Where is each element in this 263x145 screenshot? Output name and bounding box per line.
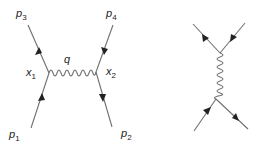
- fermion-line-bottom-right: [216, 99, 248, 129]
- label-p3: p3: [15, 7, 27, 22]
- arrow-down-left-icon: [230, 34, 237, 42]
- fermion-line-bottom-left: [194, 99, 216, 131]
- label-q: q: [64, 53, 71, 65]
- left-feynman-diagram: p3 p4 x1 x2 q p1 p2: [8, 7, 132, 143]
- feynman-diagrams-canvas: p3 p4 x1 x2 q p1 p2: [0, 0, 263, 145]
- label-p4: p4: [105, 7, 117, 22]
- fermion-line-p2: [96, 72, 112, 127]
- photon-propagator: [214, 53, 223, 99]
- arrow-up-icon: [38, 93, 45, 101]
- label-p1: p1: [8, 128, 20, 143]
- photon-propagator-q: [49, 70, 96, 76]
- arrow-down-right-icon: [232, 113, 239, 121]
- label-x2: x2: [105, 65, 117, 80]
- arrow-up-right-icon: [203, 107, 211, 115]
- right-feynman-diagram: [193, 23, 248, 131]
- label-p2: p2: [120, 127, 132, 142]
- label-x1: x1: [25, 66, 37, 81]
